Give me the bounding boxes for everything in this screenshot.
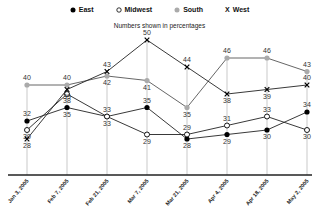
data-point-south [24, 82, 29, 87]
data-label: 38 [223, 97, 231, 104]
x-tick-label: Apr 4, 2005 [206, 178, 229, 204]
data-label: 50 [143, 29, 151, 36]
x-tick-label: Feb 21, 2005 [84, 178, 110, 207]
data-label: 30 [263, 133, 271, 140]
data-label: 32 [23, 110, 31, 117]
data-point-east [24, 118, 29, 123]
x-tick-label: Mar 7, 2005 [126, 178, 150, 205]
data-label: 35 [63, 111, 71, 118]
data-point-east [304, 109, 309, 114]
line-chart: Jan 3, 2005Feb 7, 2005Feb 21, 2005Mar 7,… [0, 0, 319, 218]
x-tick-label: Mar 21, 2005 [164, 178, 190, 207]
data-label: 41 [143, 84, 151, 91]
data-point-midwest [185, 132, 190, 137]
data-label: 46 [263, 47, 271, 54]
data-label: 43 [303, 61, 311, 68]
data-point-south [64, 82, 69, 87]
series-line-west [27, 40, 307, 139]
data-point-midwest [265, 114, 270, 119]
data-label: 39 [263, 93, 271, 100]
x-tick-label: Apr 18, 2005 [244, 178, 269, 207]
data-label: 28 [23, 142, 31, 149]
data-label: 30 [303, 133, 311, 140]
data-point-midwest [145, 132, 150, 137]
data-point-east [264, 127, 269, 132]
data-label: 42 [103, 79, 111, 86]
data-point-east [144, 105, 149, 110]
data-label: 29 [223, 138, 231, 145]
data-point-midwest [305, 128, 310, 133]
data-point-south [184, 105, 189, 110]
data-label: 46 [223, 47, 231, 54]
data-point-east [224, 132, 229, 137]
data-point-south [104, 73, 109, 78]
data-label: 33 [103, 120, 111, 127]
data-point-midwest [25, 128, 30, 133]
data-label: 28 [183, 142, 191, 149]
x-tick-label: May 2, 2005 [286, 178, 310, 205]
data-point-south [264, 55, 269, 60]
data-label: 35 [143, 97, 151, 104]
data-label: 40 [23, 74, 31, 81]
x-tick-label: Jan 3, 2005 [6, 178, 29, 204]
data-label: 39 [63, 93, 71, 100]
data-label: 40 [303, 74, 311, 81]
data-point-east [64, 105, 69, 110]
data-label: 29 [143, 138, 151, 145]
data-label: 35 [183, 111, 191, 118]
data-point-midwest [105, 114, 110, 119]
data-label: 44 [183, 56, 191, 63]
data-label: 29 [183, 124, 191, 131]
data-label: 43 [103, 61, 111, 68]
data-label: 33 [103, 106, 111, 113]
data-point-south [144, 78, 149, 83]
x-tick-label: Feb 7, 2005 [46, 178, 70, 205]
data-label: 40 [63, 74, 71, 81]
data-label: 33 [263, 106, 271, 113]
data-point-midwest [225, 123, 230, 128]
data-point-south [224, 55, 229, 60]
data-label: 34 [303, 101, 311, 108]
data-label: 31 [223, 115, 231, 122]
